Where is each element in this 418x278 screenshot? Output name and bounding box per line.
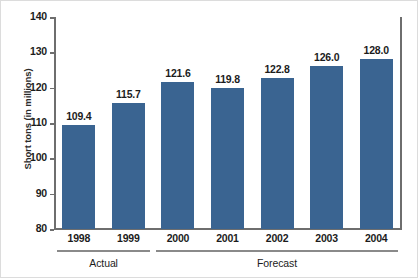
y-axis-tick: 80 <box>1 229 54 230</box>
plot-area: 109.4115.7121.6119.8122.8126.0128.0 <box>54 17 401 229</box>
bar[interactable] <box>161 82 194 229</box>
x-axis-tick-label: 2003 <box>302 232 352 244</box>
group-label: Actual <box>57 257 150 269</box>
bar[interactable] <box>211 88 244 229</box>
y-axis-tick: 140 <box>1 17 54 18</box>
bar-value-label: 115.7 <box>116 88 141 100</box>
bar-value-label: 122.8 <box>264 63 289 75</box>
y-axis-tick-label: 110 <box>31 116 47 128</box>
bar[interactable] <box>261 78 294 229</box>
bar-group[interactable]: 126.0 <box>310 17 343 229</box>
y-axis-tick-label: 80 <box>36 222 47 234</box>
y-axis-tick: 100 <box>1 158 54 159</box>
x-axis-tick-label: 2000 <box>153 232 203 244</box>
bar-value-label: 126.0 <box>314 51 339 63</box>
bar-value-label: 128.0 <box>364 44 389 56</box>
bar-group[interactable]: 121.6 <box>161 17 194 229</box>
y-axis-tick-label: 100 <box>30 151 47 163</box>
bar-group[interactable]: 115.7 <box>112 17 145 229</box>
group-rule <box>156 250 398 252</box>
bar-group[interactable]: 109.4 <box>62 17 95 229</box>
x-axis-tick-label: 1998 <box>54 232 104 244</box>
y-axis-tick: 90 <box>1 194 54 195</box>
bar-group[interactable]: 128.0 <box>360 17 393 229</box>
bar-group[interactable]: 119.8 <box>211 17 244 229</box>
x-axis-tick-label: 2001 <box>203 232 253 244</box>
bar-chart: Short tons (in millions) 809010011012013… <box>0 0 418 278</box>
bar[interactable] <box>62 125 95 229</box>
bar-value-label: 109.4 <box>66 110 91 122</box>
y-axis-tick: 120 <box>1 88 54 89</box>
x-axis-tick-label: 1999 <box>104 232 154 244</box>
group-label: Forecast <box>156 257 398 269</box>
y-axis-tick-label: 120 <box>30 81 47 93</box>
bar[interactable] <box>360 59 393 229</box>
y-axis-tick: 130 <box>1 52 54 53</box>
bar[interactable] <box>112 103 145 229</box>
bar-value-label: 121.6 <box>165 67 190 79</box>
y-axis-tick-label: 90 <box>36 187 47 199</box>
y-axis-tick-label: 130 <box>30 45 47 57</box>
y-axis-tick: 110 <box>1 123 54 124</box>
y-axis-tick-label: 140 <box>30 10 47 22</box>
x-axis-tick-label: 2002 <box>252 232 302 244</box>
bar-group[interactable]: 122.8 <box>261 17 294 229</box>
x-axis-tick-label: 2004 <box>351 232 401 244</box>
bar[interactable] <box>310 66 343 229</box>
bar-value-label: 119.8 <box>215 73 240 85</box>
group-rule <box>57 250 150 252</box>
